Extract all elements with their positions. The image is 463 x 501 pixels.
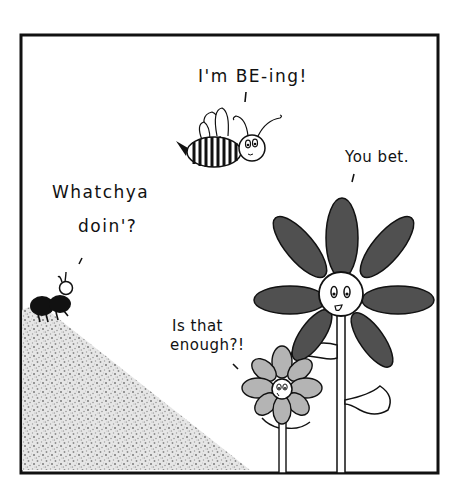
small-flower-speech-line2: enough?! (170, 338, 244, 353)
small-flower-speech-line1: Is that (172, 319, 223, 334)
bee-speech: I'm BE-ing! (198, 68, 308, 85)
comic-panel: I'm BE-ing! You bet. Whatchya doin'? Is … (0, 0, 463, 501)
big-flower-speech: You bet. (345, 150, 409, 165)
ant-speech-line1: Whatchya (52, 184, 149, 201)
ant-speech-line2: doin'? (78, 218, 137, 235)
